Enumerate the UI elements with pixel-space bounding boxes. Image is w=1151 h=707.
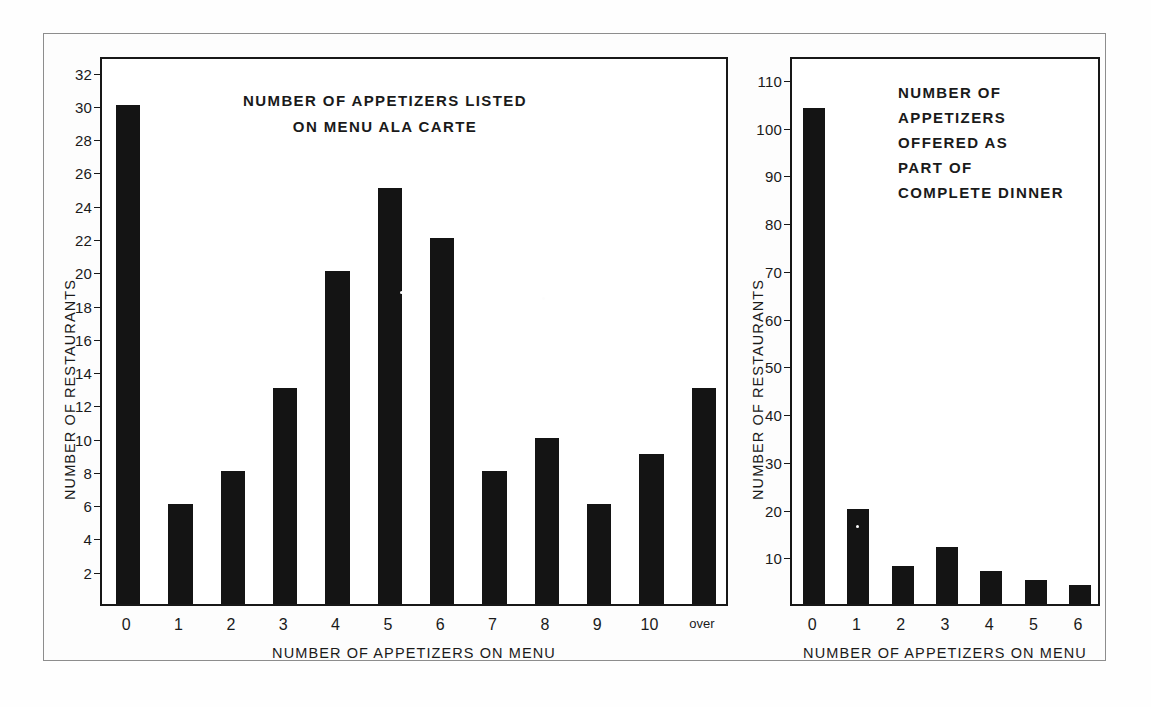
y-axis-tick-label: 32: [52, 65, 92, 82]
bar: [273, 388, 297, 604]
x-axis-tick-label: 8: [540, 616, 549, 634]
bar: [936, 547, 958, 604]
y-axis-tick-label: 50: [742, 359, 782, 376]
y-axis-tick-label: 8: [52, 464, 92, 481]
x-axis-tick-label: 9: [593, 616, 602, 634]
chart-panel-complete-dinner: NUMBER OF RESTAURANTS 102030405060708090…: [740, 0, 1151, 707]
x-axis-tick-label: 0: [808, 616, 817, 634]
x-axis-tick-label: 5: [1029, 616, 1038, 634]
bar: [378, 188, 402, 604]
x-axis-tick-label: 5: [383, 616, 392, 634]
figure-root: NUMBER OF RESTAURANTS 246810121416182022…: [0, 0, 1151, 707]
x-axis-tick-label: 1: [852, 616, 861, 634]
bar: [892, 566, 914, 604]
bar-series-a-la-carte: [102, 59, 726, 604]
x-axis-tick-label: 6: [436, 616, 445, 634]
x-axis-label-right: NUMBER OF APPETIZERS ON MENU: [780, 645, 1110, 661]
y-axis-tick-label: 40: [742, 407, 782, 424]
y-axis-tick-label: 30: [742, 454, 782, 471]
x-axis-tick-label: 3: [941, 616, 950, 634]
x-axis-tick-label: 4: [985, 616, 994, 634]
bar: [535, 438, 559, 604]
y-axis-tick-label: 70: [742, 263, 782, 280]
y-axis-tick-label: 20: [742, 502, 782, 519]
bar: [221, 471, 245, 604]
bar: [847, 509, 869, 604]
y-axis-tick-label: 24: [52, 198, 92, 215]
y-axis-tick-label: 10: [742, 550, 782, 567]
x-axis-tick-label: 4: [331, 616, 340, 634]
x-axis-tick-label: 2: [896, 616, 905, 634]
scan-speck: [856, 525, 859, 528]
x-axis-tick-label: over: [689, 616, 714, 631]
bar: [692, 388, 716, 604]
y-axis-tick-label: 16: [52, 331, 92, 348]
x-axis-tick-label: 7: [488, 616, 497, 634]
x-axis-tick-label: 1: [174, 616, 183, 634]
y-axis-tick-label: 30: [52, 98, 92, 115]
x-axis-tick-label: 6: [1073, 616, 1082, 634]
bar: [168, 504, 192, 604]
chart-title-complete-dinner: NUMBER OF APPETIZERS OFFERED AS PART OF …: [898, 80, 1128, 205]
y-axis-tick-label: 80: [742, 216, 782, 233]
y-axis-tick-label: 20: [52, 265, 92, 282]
x-axis-tick-label: 3: [279, 616, 288, 634]
x-axis-tick-label: 10: [641, 616, 659, 634]
y-axis-tick-label: 4: [52, 531, 92, 548]
y-axis-tick-label: 26: [52, 165, 92, 182]
y-axis-tick-label: 60: [742, 311, 782, 328]
y-axis-tick-label: 10: [52, 431, 92, 448]
bar: [1025, 580, 1047, 604]
y-axis-tick-label: 110: [742, 72, 782, 89]
bar: [1069, 585, 1091, 604]
y-axis-tick-label: 90: [742, 168, 782, 185]
bar: [587, 504, 611, 604]
bar: [482, 471, 506, 604]
y-axis-tick-label: 12: [52, 398, 92, 415]
x-axis-tick-label: 0: [122, 616, 131, 634]
y-axis-tick-label: 100: [742, 120, 782, 137]
y-axis-tick-label: 22: [52, 232, 92, 249]
y-axis-tick-label: 14: [52, 365, 92, 382]
x-axis-label-left: NUMBER OF APPETIZERS ON MENU: [100, 645, 728, 661]
y-axis-tick-label: 2: [52, 564, 92, 581]
chart-panel-a-la-carte: NUMBER OF RESTAURANTS 246810121416182022…: [0, 0, 740, 707]
bar: [639, 454, 663, 604]
scan-speck: [400, 291, 403, 294]
scan-speck: [542, 297, 545, 300]
x-axis-tick-label: 2: [226, 616, 235, 634]
bar: [325, 271, 349, 604]
bar: [116, 105, 140, 604]
bar: [803, 108, 825, 604]
y-axis-tick-label: 18: [52, 298, 92, 315]
y-axis-tick-label: 28: [52, 132, 92, 149]
y-axis-tick-label: 6: [52, 498, 92, 515]
bar: [980, 571, 1002, 604]
bar: [430, 238, 454, 604]
chart-title-a-la-carte: NUMBER OF APPETIZERS LISTED ON MENU ALA …: [215, 88, 555, 140]
